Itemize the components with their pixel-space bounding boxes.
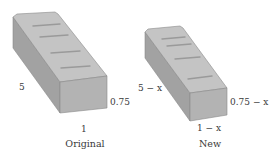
original-box-front-face [60,76,107,113]
new-box [145,26,227,121]
original-caption: Original [60,139,110,149]
new-caption: New [190,139,230,149]
new-box-front-face [190,88,227,121]
original-box [13,12,107,113]
original-width-label: 1 [81,125,87,134]
original-length-label: 5 [19,83,25,92]
new-height-label: 0.75 − x [230,98,268,107]
diagram-canvas [0,0,271,161]
new-width-label: 1 − x [197,124,221,133]
original-height-label: 0.75 [110,98,130,107]
new-length-label: 5 − x [138,84,162,93]
